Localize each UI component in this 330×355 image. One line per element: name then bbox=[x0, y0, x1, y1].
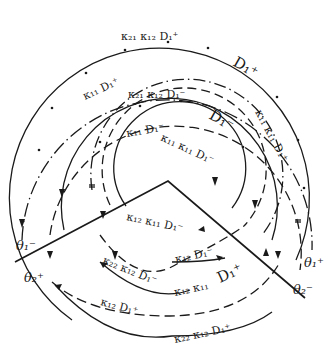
label-theta1-plus: θ₁⁺ bbox=[304, 255, 324, 270]
lower-solid-outer-arc bbox=[55, 285, 272, 337]
arrow-icon bbox=[198, 226, 205, 232]
label-lower-solid-inner-right: κ₁₂ κ₁₁ bbox=[173, 279, 210, 299]
label-middle-dashed-right: D₁⁻ bbox=[206, 106, 237, 135]
label-inner-top: κ₁₁ κ₁₁ D₁⁻ bbox=[159, 131, 217, 167]
arrow-icon bbox=[252, 200, 258, 209]
label-theta2-minus: θ₂⁻ bbox=[293, 282, 313, 297]
middle-dashed-arc bbox=[102, 88, 266, 226]
arrow-icon bbox=[59, 189, 65, 198]
label-lower-D-right: D₁⁺ bbox=[214, 259, 245, 286]
arrow-icon bbox=[47, 251, 53, 259]
arrow-icon bbox=[263, 248, 269, 256]
label-outer-dashed-right: D₁⁺ bbox=[230, 53, 261, 82]
arrow-icon bbox=[19, 219, 25, 228]
wedge-wave-diagram: κ₂₁ κ₁₂ D₁⁺ κ₁₁ D₁⁺ D₁⁺ κ₂₁ κ₁₂ D₁⁻ κ₁₁ … bbox=[0, 0, 330, 355]
lower-dashed-outer-arc bbox=[52, 262, 280, 316]
label-lower-dashed-inner: κ₁₂ D₁⁻ bbox=[174, 245, 214, 266]
label-lower-dashed-outer: κ₁₂ D₁⁺ bbox=[99, 295, 139, 318]
label-inside-wedge: κ₁₂ κ₁₁ D₁⁻ bbox=[125, 210, 184, 235]
arrow-icon bbox=[216, 255, 223, 261]
label-theta1-minus: θ₁⁻ bbox=[16, 238, 36, 253]
arrow-icon bbox=[275, 251, 281, 259]
label-outer-top: κ₂₁ κ₁₂ D₁⁺ bbox=[121, 30, 179, 43]
label-middle-top: κ₂₁ κ₁₂ D₁⁻ bbox=[128, 88, 186, 101]
label-theta2-plus: θ₂⁺ bbox=[24, 270, 44, 285]
arrow-icon bbox=[212, 177, 218, 186]
label-outer-dashed-left: κ₁₁ D₁⁺ bbox=[81, 75, 121, 103]
label-lower-solid-outer: κ₂₂ κ₁₂ D₁⁺ bbox=[173, 321, 232, 346]
